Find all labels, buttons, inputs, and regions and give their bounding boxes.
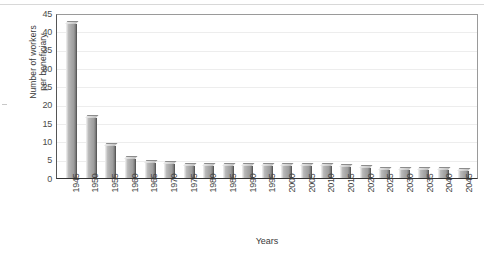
bar-top-face [241, 163, 255, 166]
bar-slot [222, 15, 235, 178]
bar-1945[interactable] [66, 24, 77, 178]
y-tick-0: 0 [47, 175, 52, 184]
bar-slot [300, 15, 313, 178]
x-tick-2040: 2040 [444, 173, 454, 192]
bar-top-face [144, 160, 158, 163]
x-axis-title: Years [56, 236, 478, 246]
y-axis-tick-labels: 454035302520151050 [26, 8, 52, 186]
x-label-slot: 1995 [261, 181, 274, 233]
x-tick-2035: 2035 [425, 173, 435, 192]
y-tick-25: 25 [42, 83, 52, 92]
bar-slot [163, 15, 176, 178]
bar-top-face [300, 163, 314, 166]
x-tick-2030: 2030 [405, 173, 415, 192]
bar-slot [417, 15, 430, 178]
x-tick-1975: 1975 [189, 173, 199, 192]
bar-top-face [261, 163, 275, 166]
bar-top-face [339, 164, 353, 167]
bar-slot [183, 15, 196, 178]
x-tick-1950: 1950 [90, 173, 100, 192]
x-tick-2020: 2020 [366, 173, 376, 192]
x-label-slot: 1955 [104, 181, 117, 233]
x-label-slot: 2030 [398, 181, 411, 233]
x-label-slot: 1960 [123, 181, 136, 233]
bar-slot [241, 15, 254, 178]
bar-top-face [104, 143, 118, 146]
bar-slot [65, 15, 78, 178]
x-tick-2045: 2045 [464, 173, 474, 192]
bar-top-face [85, 115, 99, 118]
x-label-slot: 1990 [241, 181, 254, 233]
bar-top-face [457, 168, 471, 171]
y-tick-45: 45 [42, 10, 52, 19]
x-label-slot: 2025 [379, 181, 392, 233]
bar-slot [339, 15, 352, 178]
x-tick-1965: 1965 [149, 173, 159, 192]
x-label-slot: 1950 [84, 181, 97, 233]
bar-slot [378, 15, 391, 178]
x-label-slot: 1980 [202, 181, 215, 233]
x-tick-2015: 2015 [346, 173, 356, 192]
bar-slot [261, 15, 274, 178]
bar-series [57, 15, 477, 178]
y-tick-5: 5 [47, 156, 52, 165]
left-margin-mark [2, 104, 7, 105]
bar-slot [124, 15, 137, 178]
x-label-slot: 1965 [143, 181, 156, 233]
x-label-slot: 2020 [359, 181, 372, 233]
x-label-slot: 2040 [438, 181, 451, 233]
bar-top-face [320, 163, 334, 166]
x-label-slot: 1945 [64, 181, 77, 233]
bar-top-face [359, 165, 373, 168]
bar-slot [398, 15, 411, 178]
x-label-slot: 2005 [300, 181, 313, 233]
bar-slot [280, 15, 293, 178]
bar-top-face [280, 163, 294, 166]
bar-slot [144, 15, 157, 178]
x-label-slot: 2045 [457, 181, 470, 233]
x-tick-1980: 1980 [208, 173, 218, 192]
bar-slot [104, 15, 117, 178]
x-label-slot: 2010 [320, 181, 333, 233]
bar-top-face [417, 167, 431, 170]
x-tick-1985: 1985 [228, 173, 238, 192]
bar-top-face [65, 21, 79, 24]
x-tick-2010: 2010 [326, 173, 336, 192]
bar-top-face [163, 161, 177, 164]
bar-slot [457, 15, 470, 178]
x-label-slot: 2000 [281, 181, 294, 233]
x-tick-2025: 2025 [385, 173, 395, 192]
x-tick-1955: 1955 [110, 173, 120, 192]
x-tick-1995: 1995 [267, 173, 277, 192]
y-tick-35: 35 [42, 46, 52, 55]
x-label-slot: 1985 [222, 181, 235, 233]
y-tick-15: 15 [42, 120, 52, 129]
page-top-rule [0, 4, 484, 5]
bar-slot [359, 15, 372, 178]
bar-top-face [202, 163, 216, 166]
x-tick-2005: 2005 [307, 173, 317, 192]
bar-slot [320, 15, 333, 178]
x-axis-tick-labels: 1945195019551960196519701975198019851990… [56, 181, 478, 233]
x-tick-1945: 1945 [71, 173, 81, 192]
x-tick-1960: 1960 [130, 173, 140, 192]
chart-page: Number of workers per beneficiary 454035… [0, 0, 490, 260]
y-tick-20: 20 [42, 101, 52, 110]
bar-top-face [437, 167, 451, 170]
x-label-slot: 2015 [340, 181, 353, 233]
bar-slot [202, 15, 215, 178]
bar-top-face [183, 163, 197, 166]
bar-top-face [378, 167, 392, 170]
y-tick-10: 10 [42, 138, 52, 147]
bar-1950[interactable] [86, 118, 97, 179]
y-tick-30: 30 [42, 65, 52, 74]
plot-area [56, 14, 478, 179]
x-label-slot: 2035 [418, 181, 431, 233]
bar-top-face [124, 156, 138, 159]
bar-top-face [398, 167, 412, 170]
bar-top-face [222, 163, 236, 166]
x-tick-1990: 1990 [248, 173, 258, 192]
y-tick-40: 40 [42, 28, 52, 37]
x-tick-1970: 1970 [169, 173, 179, 192]
bar-slot [85, 15, 98, 178]
